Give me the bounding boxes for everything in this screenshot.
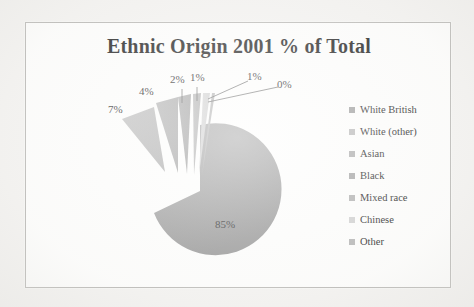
scan-background: Ethnic Origin 2001 % of Total [0,0,474,307]
pie-slice-black [178,94,191,174]
leader-line-1pct-b [208,81,248,99]
legend-item-white-british[interactable]: White British [349,99,449,121]
legend-item-chinese[interactable]: Chinese [349,209,449,231]
data-label-white-british: 85% [215,218,235,230]
legend-label-mixed-race: Mixed race [360,193,408,204]
legend-item-black[interactable]: Black [349,165,449,187]
legend-swatch-white-other [349,129,355,135]
data-label-white-other: 7% [108,103,123,115]
legend-label-white-other: White (other) [360,127,417,138]
legend-swatch-black [349,173,355,179]
data-label-mixed-race: 1% [190,71,205,83]
data-label-black: 2% [170,73,185,85]
legend-swatch-white-british [349,107,355,113]
pie-slice-white-other [122,107,165,172]
data-label-chinese: 1% [247,70,262,82]
legend-item-white-other[interactable]: White (other) [349,121,449,143]
chart-frame: Ethnic Origin 2001 % of Total [25,22,451,288]
chart-legend: White British White (other) Asian Black … [349,99,449,253]
legend-swatch-asian [349,151,355,157]
data-label-other: 0% [277,78,292,90]
data-label-asian: 4% [139,85,154,97]
legend-swatch-mixed-race [349,195,355,201]
legend-label-other: Other [360,237,384,248]
legend-item-mixed-race[interactable]: Mixed race [349,187,449,209]
legend-swatch-other [349,239,355,245]
legend-label-asian: Asian [360,149,385,160]
legend-swatch-chinese [349,217,355,223]
legend-label-chinese: Chinese [360,215,394,226]
legend-item-other[interactable]: Other [349,231,449,253]
legend-label-white-british: White British [360,105,417,116]
legend-item-asian[interactable]: Asian [349,143,449,165]
legend-label-black: Black [360,171,385,182]
